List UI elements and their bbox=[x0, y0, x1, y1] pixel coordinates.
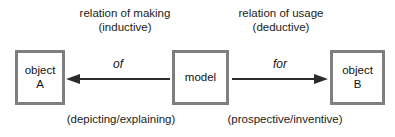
node-box-model: model bbox=[172, 50, 229, 105]
node-box-object-a: object A bbox=[15, 50, 65, 105]
caption-relation-of-making-line2: (inductive) bbox=[48, 20, 202, 34]
node-box-object-a-line1: object bbox=[25, 64, 56, 76]
caption-relation-of-making-line1: relation of making bbox=[80, 7, 171, 19]
node-box-object-b-label: object B bbox=[340, 64, 375, 91]
caption-relation-of-making: relation of making (inductive) bbox=[48, 6, 202, 34]
node-box-model-label: model bbox=[183, 71, 218, 85]
node-box-object-a-line2: A bbox=[36, 78, 44, 90]
arrow-right-for-icon bbox=[232, 70, 328, 88]
node-box-object-b: object B bbox=[330, 50, 385, 105]
arrow-label-for: for bbox=[258, 57, 302, 71]
arrow-left-of-icon bbox=[66, 70, 170, 88]
caption-relation-of-usage-line1: relation of usage bbox=[238, 7, 323, 19]
relation-diagram: relation of making (inductive) relation … bbox=[0, 0, 395, 137]
node-box-object-b-line2: B bbox=[354, 78, 362, 90]
caption-prospective-inventive: (prospective/inventive) bbox=[198, 112, 372, 126]
arrow-label-of: of bbox=[96, 57, 140, 71]
caption-relation-of-usage-line2: (deductive) bbox=[204, 20, 358, 34]
node-box-object-a-label: object A bbox=[23, 64, 58, 91]
caption-depicting-explaining: (depicting/explaining) bbox=[40, 112, 202, 126]
caption-relation-of-usage: relation of usage (deductive) bbox=[204, 6, 358, 34]
node-box-object-b-line1: object bbox=[342, 64, 373, 76]
